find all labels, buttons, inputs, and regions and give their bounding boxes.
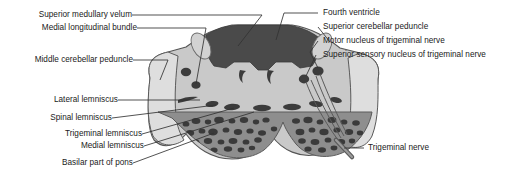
pons-cross-section-figure: Superior medullary velum Medial longitud…	[0, 0, 531, 183]
label-basilar-part-of-pons: Basilar part of pons	[32, 158, 133, 167]
label-trigeminal-lemniscus: Trigeminal lemniscus	[32, 129, 142, 138]
label-middle-cerebellar-peduncle: Middle cerebellar peduncle	[2, 55, 133, 64]
label-medial-longitudinal-bundle: Medial longitudinal bundle	[6, 23, 137, 32]
label-lateral-lemniscus: Lateral lemniscus	[24, 95, 118, 104]
label-superior-medullary-velum: Superior medullary velum	[6, 10, 132, 19]
medial-lemniscus-segment-right	[283, 104, 301, 110]
label-medial-lemniscus: Medial lemniscus	[48, 141, 144, 150]
superior-sensory-nucleus-of-trigeminal-nerve	[299, 75, 309, 84]
label-motor-nucleus-trigeminal: Motor nucleus of trigeminal nerve	[323, 36, 445, 45]
label-fourth-ventricle: Fourth ventricle	[323, 8, 380, 17]
label-spinal-lemniscus: Spinal lemniscus	[30, 113, 112, 122]
medial-lemniscus-segment-left	[253, 105, 271, 111]
label-superior-cerebellar-peduncle: Superior cerebellar peduncle	[323, 22, 428, 31]
mlb-nucleus-upper	[181, 68, 191, 76]
label-superior-sensory-nucleus-trigeminal: Superior sensory nucleus of trigeminal n…	[323, 50, 486, 59]
label-trigeminal-nerve: Trigeminal nerve	[368, 143, 429, 152]
